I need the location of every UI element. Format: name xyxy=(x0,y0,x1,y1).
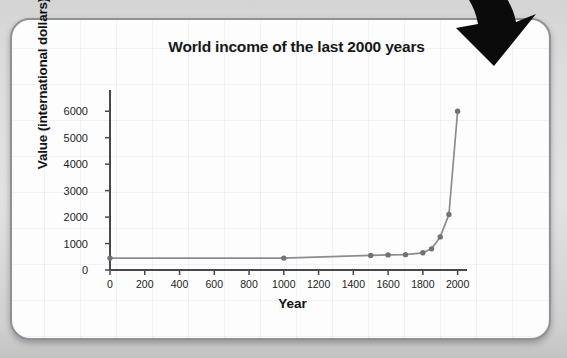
data-point-marker xyxy=(429,246,434,251)
axis-lines xyxy=(110,90,467,270)
data-point-marker xyxy=(107,255,112,260)
data-point-markers xyxy=(107,109,460,261)
data-point-marker xyxy=(446,212,451,217)
data-point-marker xyxy=(455,109,460,114)
data-series-line xyxy=(110,111,458,258)
plot-svg xyxy=(0,0,567,358)
plot-area: Value (international dollars) Year 01000… xyxy=(0,0,567,358)
data-point-marker xyxy=(281,255,286,260)
data-point-marker xyxy=(403,252,408,257)
data-point-marker xyxy=(420,250,425,255)
axis-ticks xyxy=(105,111,458,275)
data-point-marker xyxy=(385,252,390,257)
data-point-marker xyxy=(368,253,373,258)
data-point-marker xyxy=(438,234,443,239)
